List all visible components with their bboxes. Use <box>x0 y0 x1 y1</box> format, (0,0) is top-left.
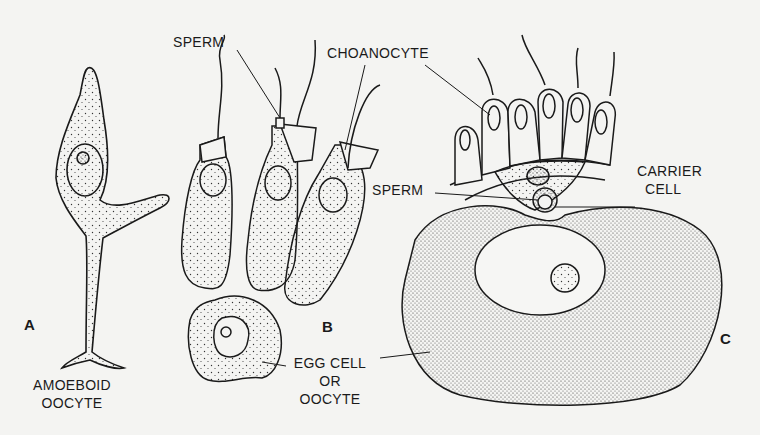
sperm-label-c: SPERM <box>372 182 423 198</box>
caption-line-1: AMOEBOID <box>22 377 122 393</box>
egg-cell-label: EGG CELL OR OOCYTE <box>290 355 370 407</box>
carrier-line-1: CARRIER <box>637 163 702 179</box>
carrier-cell-label: CARRIER CELL <box>637 163 702 197</box>
carrier-line-2: CELL <box>637 181 702 197</box>
amoeboid-oocyte-drawing <box>56 68 169 369</box>
carrier-cell-drawing <box>402 35 722 405</box>
egg-line-2: OR <box>290 373 370 389</box>
caption-line-2: OOCYTE <box>22 395 122 411</box>
panel-label-b: B <box>322 318 333 335</box>
biology-diagram <box>0 0 760 435</box>
choanocytes-drawing <box>182 35 380 381</box>
panel-label-a: A <box>24 316 35 333</box>
egg-line-3: OOCYTE <box>290 391 370 407</box>
panel-label-c: C <box>720 330 731 347</box>
amoeboid-oocyte-label: AMOEBOID OOCYTE <box>22 377 122 411</box>
sperm-label-b: SPERM <box>173 34 224 50</box>
choanocyte-label: CHOANOCYTE <box>327 45 429 61</box>
egg-line-1: EGG CELL <box>290 355 370 371</box>
